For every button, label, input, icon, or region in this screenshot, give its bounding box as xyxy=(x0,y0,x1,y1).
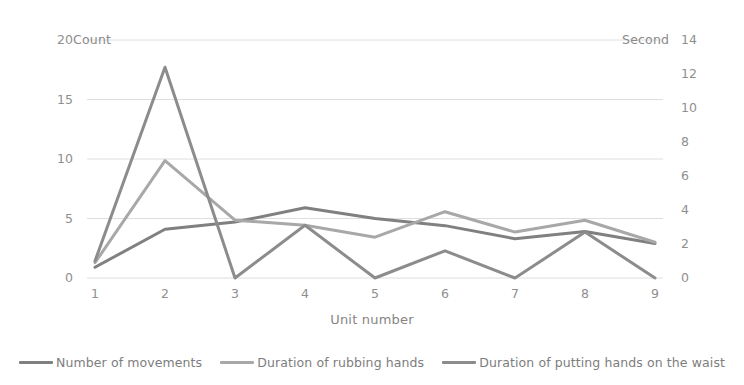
right-tick-label: 2 xyxy=(681,236,707,251)
legend-line-swatch-icon xyxy=(220,361,254,364)
series-line-2 xyxy=(95,161,655,263)
left-tick-label: 5 xyxy=(47,211,73,226)
x-tick-label: 8 xyxy=(570,286,600,301)
x-tick-label: 3 xyxy=(220,286,250,301)
right-tick-label: 6 xyxy=(681,168,707,183)
legend-label: Number of movements xyxy=(56,355,202,370)
x-tick-label: 5 xyxy=(360,286,390,301)
left-tick-label: 0 xyxy=(47,270,73,285)
chart-legend: Number of movementsDuration of rubbing h… xyxy=(0,355,744,370)
left-tick-label: 15 xyxy=(47,92,73,107)
chart-plot-area xyxy=(0,0,744,385)
x-tick-label: 6 xyxy=(430,286,460,301)
legend-item-2[interactable]: Duration of rubbing hands xyxy=(220,355,424,370)
x-axis-title: Unit number xyxy=(0,312,744,327)
x-tick-label: 2 xyxy=(150,286,180,301)
x-tick-label: 9 xyxy=(640,286,670,301)
legend-item-1[interactable]: Number of movements xyxy=(19,355,202,370)
x-tick-label: 1 xyxy=(80,286,110,301)
x-tick-label: 7 xyxy=(500,286,530,301)
right-tick-label: 8 xyxy=(681,134,707,149)
legend-line-swatch-icon xyxy=(19,361,53,364)
left-tick-label: 10 xyxy=(47,151,73,166)
line-chart: Count Second 05101520 02468101214 123456… xyxy=(0,0,744,385)
left-axis-caption: Count xyxy=(73,32,111,47)
legend-label: Duration of rubbing hands xyxy=(257,355,424,370)
right-axis-caption: Second xyxy=(622,32,669,47)
right-tick-label: 0 xyxy=(681,270,707,285)
left-tick-label: 20 xyxy=(47,32,73,47)
legend-label: Duration of putting hands on the waist xyxy=(479,355,725,370)
legend-line-swatch-icon xyxy=(442,361,476,364)
legend-item-3[interactable]: Duration of putting hands on the waist xyxy=(442,355,725,370)
x-tick-label: 4 xyxy=(290,286,320,301)
right-tick-label: 10 xyxy=(681,100,707,115)
right-tick-label: 14 xyxy=(681,32,707,47)
right-tick-label: 12 xyxy=(681,66,707,81)
right-tick-label: 4 xyxy=(681,202,707,217)
